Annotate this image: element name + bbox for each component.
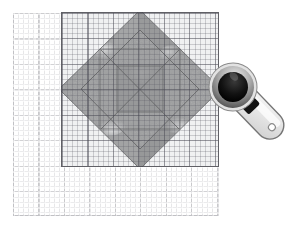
quilting-scene: [0, 0, 303, 236]
rotary-cutter[interactable]: [206, 60, 303, 160]
quilt-block: [61, 12, 219, 167]
rotary-cutter-graphic: [206, 60, 303, 160]
quilt-block-graphic: [61, 12, 219, 167]
